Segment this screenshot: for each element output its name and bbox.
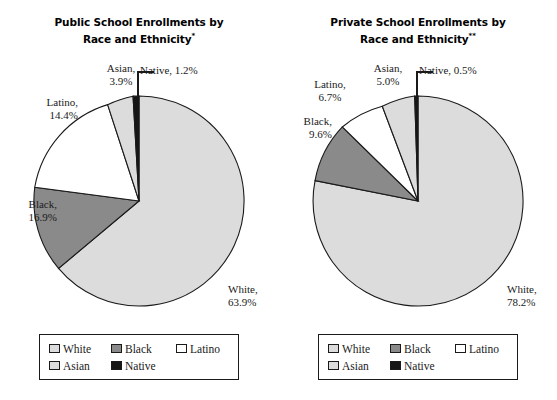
legend-label-white: White bbox=[63, 343, 91, 355]
legend-label-native: Native bbox=[404, 360, 435, 372]
legend-item-latino[interactable]: Latino bbox=[176, 343, 220, 355]
title-line-2: Race and Ethnicity bbox=[360, 32, 469, 44]
legend-label-black: Black bbox=[125, 343, 152, 355]
pie-label-latino: Latino, 6.7% bbox=[301, 78, 359, 103]
pie-label-asian: Asian, 3.9% bbox=[95, 62, 147, 87]
title-line-2: Race and Ethnicity bbox=[83, 32, 192, 44]
legend-label-black: Black bbox=[404, 343, 431, 355]
legend-swatch-asian-icon bbox=[49, 361, 60, 370]
legend-swatch-black-icon bbox=[390, 344, 401, 353]
legend-swatch-black-icon bbox=[111, 344, 122, 353]
page-title-private: Private School Enrollments by Race and E… bbox=[279, 16, 557, 46]
legend-swatch-latino-icon bbox=[176, 344, 187, 353]
legend-label-white: White bbox=[342, 343, 370, 355]
legend-swatch-native-icon bbox=[111, 361, 122, 370]
legend-label-asian: Asian bbox=[342, 360, 369, 372]
legend-item-white[interactable]: White bbox=[49, 343, 111, 355]
pie-label-black: Black, 9.6% bbox=[279, 115, 332, 140]
legend-item-black[interactable]: Black bbox=[111, 343, 176, 355]
legend-swatch-latino-icon bbox=[455, 344, 466, 353]
legend-row-1: White Black Latino bbox=[328, 340, 510, 357]
page-title-public: Public School Enrollments by Race and Et… bbox=[0, 16, 278, 46]
legend-swatch-native-icon bbox=[390, 361, 401, 370]
pie-chart-private bbox=[312, 95, 524, 307]
legend-label-latino: Latino bbox=[190, 343, 220, 355]
pie-label-asian: Asian, 5.0% bbox=[362, 62, 414, 87]
legend-row-2: Asian Native bbox=[49, 357, 231, 374]
pie-svg-public bbox=[33, 95, 245, 307]
pie-chart-public bbox=[33, 95, 245, 307]
chart-panel-private: Private School Enrollments by Race and E… bbox=[279, 0, 557, 400]
chart-panel-public: Public School Enrollments by Race and Et… bbox=[0, 0, 278, 400]
legend-swatch-asian-icon bbox=[328, 361, 339, 370]
legend-swatch-white-icon bbox=[49, 344, 60, 353]
legend-swatch-white-icon bbox=[328, 344, 339, 353]
pie-svg-private bbox=[312, 95, 524, 307]
title-line-1: Public School Enrollments by bbox=[55, 16, 224, 28]
pie-label-latino: Latino, 14.4% bbox=[18, 96, 78, 121]
native-leader-line-vertical bbox=[416, 71, 418, 97]
legend-label-native: Native bbox=[125, 360, 156, 372]
title-line-1: Private School Enrollments by bbox=[330, 16, 505, 28]
legend-item-asian[interactable]: Asian bbox=[328, 360, 390, 372]
legend-item-black[interactable]: Black bbox=[390, 343, 455, 355]
legend-private: White Black Latino Asian Native bbox=[318, 334, 518, 380]
legend-item-asian[interactable]: Asian bbox=[49, 360, 111, 372]
legend-item-native[interactable]: Native bbox=[390, 360, 435, 372]
title-footnote-marker: ** bbox=[469, 32, 476, 40]
pie-label-native: Native, 0.5% bbox=[419, 64, 477, 77]
legend-item-latino[interactable]: Latino bbox=[455, 343, 499, 355]
legend-row-1: White Black Latino bbox=[49, 340, 231, 357]
legend-item-white[interactable]: White bbox=[328, 343, 390, 355]
legend-label-asian: Asian bbox=[63, 360, 90, 372]
pie-label-native: Native, 1.2% bbox=[140, 64, 198, 77]
pie-label-black: Black, 16.9% bbox=[2, 198, 57, 223]
legend-item-native[interactable]: Native bbox=[111, 360, 156, 372]
title-footnote-marker: * bbox=[191, 32, 195, 40]
pie-label-white: White, 63.9% bbox=[228, 283, 258, 308]
legend-public: White Black Latino Asian Native bbox=[39, 334, 239, 380]
pie-label-white: White, 78.2% bbox=[507, 283, 537, 308]
legend-label-latino: Latino bbox=[469, 343, 499, 355]
legend-row-2: Asian Native bbox=[328, 357, 510, 374]
